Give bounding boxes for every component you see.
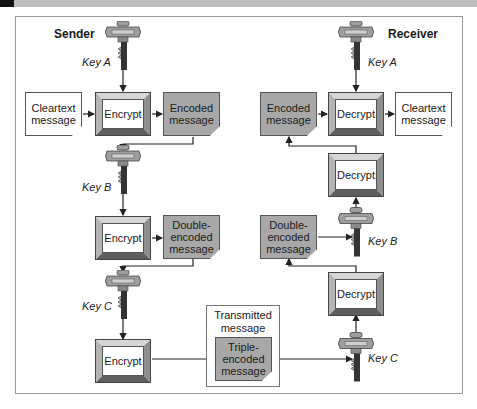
receiver-key-c-label: Key C bbox=[368, 352, 398, 364]
decrypt-label: Decrypt bbox=[335, 160, 377, 190]
key-icon bbox=[337, 205, 375, 260]
encoded-message-sender: Encodedmessage bbox=[163, 92, 220, 136]
receiver-key-b-label: Key B bbox=[368, 235, 397, 247]
encoded-message-receiver: Encodedmessage bbox=[260, 92, 317, 136]
decrypt-box-2: Decrypt bbox=[328, 153, 384, 197]
cleartext-message-receiver: Cleartextmessage bbox=[395, 92, 452, 136]
key-a-label: Key A bbox=[82, 56, 111, 68]
decrypt-box-1: Decrypt bbox=[328, 92, 384, 136]
decrypt-label: Decrypt bbox=[335, 99, 377, 129]
double-encoded-message-receiver: Double-encodedmessage bbox=[260, 215, 317, 259]
encrypt-box-1: Encrypt bbox=[95, 92, 151, 136]
encrypt-label: Encrypt bbox=[102, 223, 144, 253]
double-encoded-message-sender: Double-encodedmessage bbox=[163, 215, 220, 259]
encrypt-label: Encrypt bbox=[102, 346, 144, 376]
key-b-label: Key B bbox=[82, 181, 111, 193]
decrypt-label: Decrypt bbox=[335, 279, 377, 309]
encrypt-box-3: Encrypt bbox=[95, 339, 151, 383]
receiver-key-a-label: Key A bbox=[368, 56, 397, 68]
decrypt-box-3: Decrypt bbox=[328, 272, 384, 316]
transmitted-label: Transmittedmessage bbox=[207, 309, 279, 335]
encrypt-box-2: Encrypt bbox=[95, 216, 151, 260]
encrypt-label: Encrypt bbox=[102, 99, 144, 129]
sender-label: Sender bbox=[54, 27, 95, 41]
key-c-label: Key C bbox=[82, 300, 112, 312]
key-icon bbox=[104, 270, 142, 320]
triple-encoded-message: Triple-encodedmessage bbox=[215, 337, 272, 381]
cleartext-message-sender: Cleartextmessage bbox=[25, 92, 82, 136]
receiver-label: Receiver bbox=[388, 27, 438, 41]
